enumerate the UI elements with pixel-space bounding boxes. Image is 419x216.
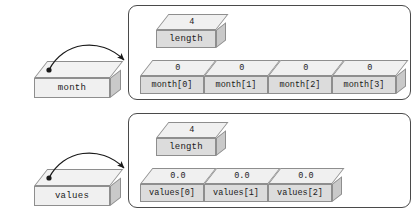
box-top-face xyxy=(34,169,123,186)
box-top-face xyxy=(34,61,123,78)
cell-top-face: 0 xyxy=(332,60,409,76)
box-top-face: 4 xyxy=(156,14,229,30)
cell-label: values[2] xyxy=(268,184,332,202)
length-value-values: 4 xyxy=(190,125,195,135)
diagram-canvas: month 4 length 0 month[0] 0 month[1] xyxy=(0,0,419,216)
length-box-month: 4 length xyxy=(146,14,226,48)
length-label-values: length xyxy=(156,138,216,156)
array-cells-month: 0 month[0] 0 month[1] 0 month[2] 0 xyxy=(140,60,406,94)
cell-value: 0.0 xyxy=(299,171,314,181)
reference-label-month: month xyxy=(34,78,110,98)
reference-label-values: values xyxy=(34,186,110,206)
cell-value: 0 xyxy=(304,63,309,73)
cell-value: 0 xyxy=(368,63,373,73)
cell-value: 0.0 xyxy=(171,171,186,181)
cell-value: 0 xyxy=(176,63,181,73)
length-box-values: 4 length xyxy=(146,122,226,156)
reference-box-values: values xyxy=(23,169,121,206)
length-value-month: 4 xyxy=(190,17,195,27)
cell-label: month[0] xyxy=(140,76,204,94)
cell-label: values[1] xyxy=(204,184,268,202)
cell-label: month[2] xyxy=(268,76,332,94)
cell-label: month[1] xyxy=(204,76,268,94)
cell-label: values[0] xyxy=(140,184,204,202)
cell-value: 0.0 xyxy=(235,171,250,181)
array-cells-values: 0.0 values[0] 0.0 values[1] 0.0 values[2… xyxy=(140,168,342,202)
length-label-month: length xyxy=(156,30,216,48)
cell-label: month[3] xyxy=(332,76,396,94)
cell-top-face: 0.0 xyxy=(268,168,345,184)
reference-box-month: month xyxy=(23,61,121,98)
box-top-face: 4 xyxy=(156,122,229,138)
cell-value: 0 xyxy=(240,63,245,73)
